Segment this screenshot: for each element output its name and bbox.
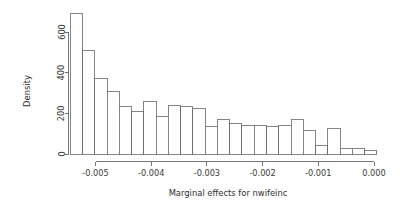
histogram-bar [242, 126, 254, 154]
histogram-bar [217, 120, 229, 154]
x-axis-tick-label: 0.000 [362, 168, 385, 178]
x-axis-tick-label: -0.001 [305, 168, 331, 178]
histogram-bars [70, 13, 376, 154]
plot-canvas: 0200400600 -0.005-0.004-0.003-0.002-0.00… [0, 0, 402, 211]
histogram-bar [83, 50, 95, 154]
histogram-bar [352, 148, 364, 154]
histogram-bar [279, 126, 291, 154]
x-axis: -0.005-0.004-0.003-0.002-0.0010.000 [82, 162, 385, 178]
histogram-bar [230, 124, 242, 155]
histogram-bar [340, 148, 352, 154]
histogram-bar [107, 92, 119, 154]
histogram-bar [205, 127, 217, 154]
histogram-bar [168, 105, 180, 154]
histogram-bar [181, 107, 193, 154]
histogram-bar [267, 127, 279, 154]
y-axis: 0200400600 [57, 24, 69, 156]
histogram-bar [254, 126, 266, 154]
histogram-bar [291, 120, 303, 154]
histogram-bar [132, 112, 144, 154]
histogram-bar [95, 78, 107, 154]
y-axis-tick-label: 400 [57, 65, 67, 81]
x-axis-title: Marginal effects for nwifeinc [169, 188, 288, 198]
y-axis-tick-label: 200 [57, 106, 67, 122]
y-axis-tick-label: 600 [57, 24, 67, 40]
x-axis-tick-label: -0.002 [249, 168, 275, 178]
x-axis-tick-label: -0.005 [82, 168, 108, 178]
histogram-bar [156, 117, 168, 154]
x-axis-tick-label: -0.003 [194, 168, 220, 178]
histogram-bar [193, 108, 205, 154]
y-axis-title: Density [22, 75, 32, 107]
histogram-bar [316, 146, 328, 154]
histogram-bar [70, 13, 82, 154]
histogram-bar [328, 128, 340, 154]
histogram-bar [365, 151, 377, 154]
histogram-plot: 0200400600 -0.005-0.004-0.003-0.002-0.00… [0, 0, 402, 211]
histogram-bar [144, 102, 156, 154]
histogram-bar [119, 107, 131, 154]
histogram-bar [303, 130, 315, 154]
x-axis-tick-label: -0.004 [138, 168, 164, 178]
y-axis-tick-label: 0 [57, 151, 67, 156]
